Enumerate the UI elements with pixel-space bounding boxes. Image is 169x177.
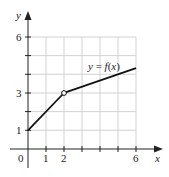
curve-label: y = f(x): [87, 60, 120, 73]
x-tick-label-2: 2: [61, 152, 67, 164]
x-axis-label: x: [154, 152, 160, 164]
x-tick-label-1: 1: [43, 152, 49, 164]
open-circle-icon: [62, 91, 67, 96]
curve-segment-1: [28, 95, 63, 131]
graph: 0 1 2 6 1 3 6 x y y = f(x): [0, 0, 169, 177]
curve-label-arg: (x): [108, 60, 121, 73]
y-axis-label: y: [15, 9, 21, 21]
ticks: [25, 37, 136, 152]
x-tick-label-6: 6: [133, 152, 139, 164]
grid: [28, 37, 136, 149]
y-tick-label-3: 3: [16, 87, 22, 99]
y-tick-label-1: 1: [16, 124, 22, 136]
origin-label: 0: [18, 152, 24, 164]
y-tick-label-6: 6: [16, 31, 22, 43]
curve-label-eq: =: [93, 60, 105, 72]
y-axis-arrow-icon: [25, 11, 32, 20]
